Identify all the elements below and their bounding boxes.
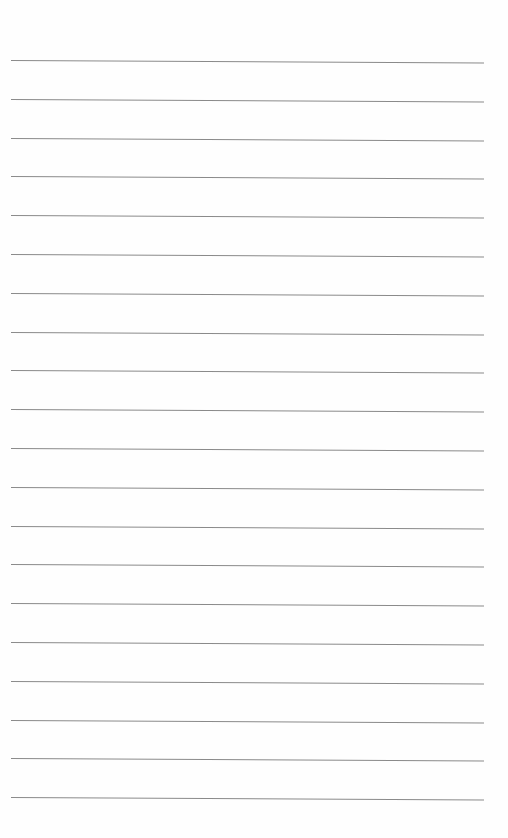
ruled-line	[11, 215, 484, 218]
ruled-line	[11, 603, 484, 606]
ruled-line	[11, 564, 484, 567]
ruled-line	[11, 758, 484, 761]
ruled-line	[11, 176, 484, 179]
ruled-line	[11, 370, 484, 373]
ruled-line	[11, 60, 484, 63]
ruled-line	[11, 99, 484, 102]
ruled-line	[11, 332, 484, 335]
ruled-line	[11, 487, 484, 490]
ruled-line	[11, 526, 484, 529]
ruled-line	[11, 642, 484, 645]
ruled-line	[11, 409, 484, 412]
ruled-line	[11, 797, 484, 800]
ruled-line	[11, 138, 484, 141]
ruled-line	[11, 681, 484, 684]
ruled-line	[11, 254, 484, 257]
ruled-line	[11, 293, 484, 296]
ruled-line	[11, 720, 484, 723]
ruled-line	[11, 448, 484, 451]
ruled-page	[0, 0, 508, 838]
